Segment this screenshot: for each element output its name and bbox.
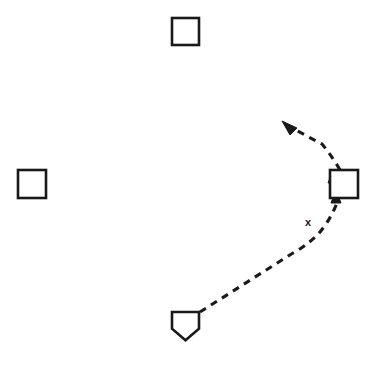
home-plate	[172, 312, 199, 340]
first-base	[330, 170, 358, 198]
home-to-first-run-path	[200, 200, 338, 312]
first-base-overrun-path	[288, 126, 340, 170]
third-base	[18, 170, 46, 198]
arrow-overrun-tip-icon	[282, 121, 297, 135]
field-svg: x	[0, 0, 384, 372]
x-marker: x	[305, 216, 312, 228]
second-base	[172, 18, 199, 45]
baserunning-diagram: x	[0, 0, 384, 372]
